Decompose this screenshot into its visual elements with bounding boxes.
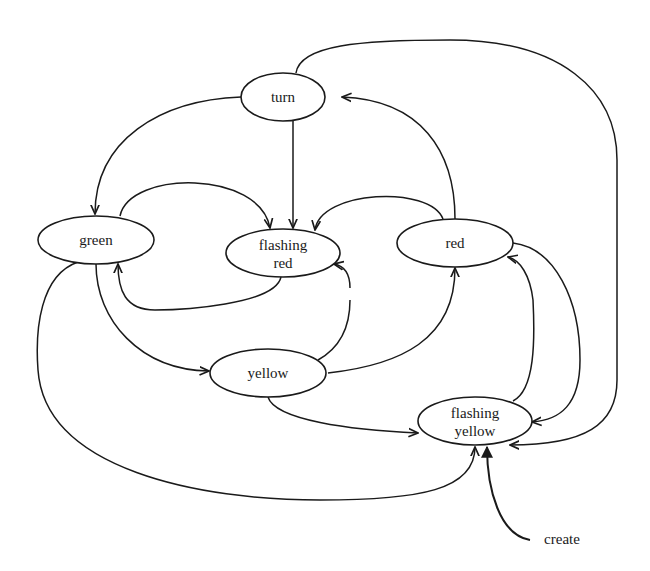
node-turn: turn [241,73,325,121]
node-yellow: yellow [210,349,326,397]
node-flashing-red: flashing red [226,229,340,277]
create-label: create [544,531,580,547]
node-label-line1: flashing [259,237,308,253]
edge-green-to-yellow [96,264,209,371]
edges [37,40,617,540]
edge-flashing-yellow-to-red [508,257,534,401]
edge-turn-to-green [95,97,241,214]
node-label: green [79,232,113,248]
node-label-line1: flashing [451,405,500,421]
edge-yellow-to-flashing-red-tail [334,264,350,288]
node-label-line2: yellow [455,423,496,439]
node-label: yellow [248,365,289,381]
node-red: red [397,219,513,267]
node-green: green [38,216,154,264]
node-label: turn [271,89,296,105]
edge-green-to-flashing-red [120,183,270,228]
edge-yellow-to-flashing-red [318,300,350,360]
edge-red-to-turn [342,97,455,219]
state-diagram: turn green flashing red red yellow flash… [0,0,650,571]
edge-yellow-to-flashing-yellow [268,397,418,433]
node-flashing-yellow: flashing yellow [418,397,532,445]
node-label-line2: red [273,255,293,271]
edge-create-to-flashing-yellow [487,447,530,540]
node-label: red [445,235,465,251]
